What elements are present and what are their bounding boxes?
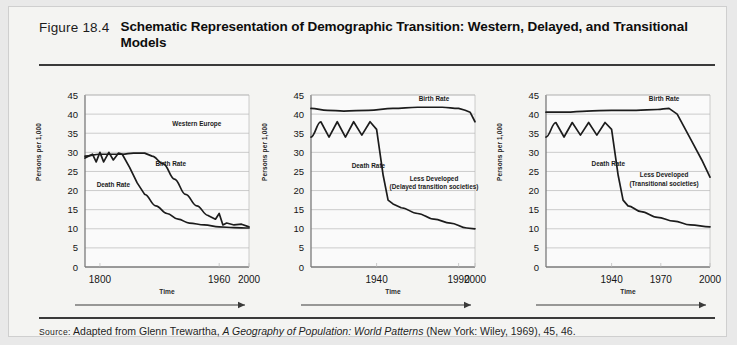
annotation-panel-label-2: (Transitional societies) — [629, 180, 698, 188]
source-title: A Geography of Population: World Pattern… — [222, 325, 423, 337]
y-tick-label: 35 — [293, 128, 304, 139]
title-divider — [39, 64, 715, 66]
x-tick-label: 2000 — [464, 274, 487, 285]
x-tick-label: 1940 — [600, 274, 623, 285]
chart-panel-delayed: Persons per 1,000 0510152025303540451940… — [263, 85, 495, 310]
source-note: Source: Adapted from Glenn Trewartha, A … — [39, 325, 729, 337]
figure-title: Schematic Representation of Demographic … — [121, 19, 712, 50]
y-tick-label: 25 — [528, 166, 539, 177]
time-arrow-icon — [238, 302, 245, 308]
source-text-after: (New York: Wiley, 1969), 45, 46. — [423, 325, 575, 337]
y-tick-label: 20 — [67, 185, 78, 196]
chart-less-developed-transitional: 051015202530354045194019702000TimeBirth … — [498, 85, 730, 310]
annotation-panel-label-1: Less Developed — [410, 175, 459, 183]
y-tick-label: 35 — [528, 128, 539, 139]
figure-card: Figure 18.4 Schematic Representation of … — [8, 6, 727, 337]
annotation-death-rate: Death Rate — [592, 160, 626, 167]
x-tick-label: 1940 — [365, 274, 388, 285]
y-tick-label: 10 — [293, 223, 304, 234]
y-tick-label: 45 — [293, 90, 304, 101]
chart-panel-transitional: Persons per 1,000 0510152025303540451940… — [498, 85, 730, 310]
chart-panel-western: Persons per 1,000 0510152025303540451800… — [37, 85, 269, 310]
y-tick-label: 40 — [528, 109, 539, 120]
y-tick-label: 30 — [528, 147, 539, 158]
annotation-death-rate: Death Rate — [352, 162, 386, 169]
x-tick-label: 1960 — [208, 274, 231, 285]
source-text-before: Adapted from Glenn Trewartha, — [71, 325, 223, 337]
time-arrow-icon — [464, 302, 471, 308]
y-tick-label: 20 — [293, 185, 304, 196]
x-axis-label: Time — [159, 288, 175, 295]
y-tick-label: 30 — [67, 147, 78, 158]
y-tick-label: 0 — [299, 262, 304, 273]
y-tick-label: 0 — [534, 262, 539, 273]
y-tick-label: 5 — [73, 242, 78, 253]
annotation-panel-label-2: (Delayed transition societies) — [390, 183, 479, 191]
y-tick-label: 45 — [67, 90, 78, 101]
source-prefix: Source: — [39, 327, 71, 337]
annotation-panel-label-1: Less Developed — [640, 171, 689, 179]
figure-header: Figure 18.4 Schematic Representation of … — [39, 19, 711, 50]
chart-less-developed-delayed: 051015202530354045194019902000TimeBirth … — [263, 85, 495, 310]
x-tick-label: 1800 — [89, 274, 112, 285]
y-tick-label: 10 — [528, 223, 539, 234]
figure-number: Figure 18.4 — [39, 19, 110, 35]
y-tick-label: 25 — [293, 166, 304, 177]
annotation-birth-rate: Birth Rate — [155, 160, 186, 167]
annotation-death-rate: Death Rate — [97, 181, 131, 188]
x-axis-label: Time — [385, 288, 401, 295]
y-tick-label: 25 — [67, 166, 78, 177]
annotation-birth-rate: Birth Rate — [649, 95, 680, 102]
y-tick-label: 10 — [67, 223, 78, 234]
y-tick-label: 40 — [293, 109, 304, 120]
x-tick-label: 2000 — [699, 274, 722, 285]
source-divider — [39, 317, 715, 319]
y-tick-label: 5 — [534, 242, 539, 253]
time-arrow-icon — [699, 302, 706, 308]
y-tick-label: 15 — [293, 204, 304, 215]
y-tick-label: 30 — [293, 147, 304, 158]
y-tick-label: 20 — [528, 185, 539, 196]
chart-western-europe: 051015202530354045180019602000TimeWester… — [37, 85, 269, 310]
y-tick-label: 15 — [528, 204, 539, 215]
x-axis-label: Time — [620, 288, 636, 295]
x-tick-label: 1970 — [650, 274, 673, 285]
y-tick-label: 5 — [299, 242, 304, 253]
y-tick-label: 15 — [67, 204, 78, 215]
y-tick-label: 35 — [67, 128, 78, 139]
y-tick-label: 0 — [73, 262, 78, 273]
y-tick-label: 45 — [528, 90, 539, 101]
x-tick-label: 2000 — [238, 274, 261, 285]
annotation-birth-rate: Birth Rate — [419, 95, 450, 102]
y-tick-label: 40 — [67, 109, 78, 120]
annotation-panel-label: Western Europe — [172, 120, 221, 128]
